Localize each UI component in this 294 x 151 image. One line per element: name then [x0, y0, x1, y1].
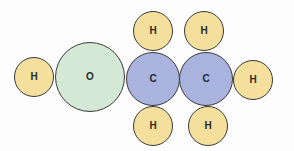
oxygen-atom: O: [55, 42, 125, 112]
atom-label: H: [149, 26, 156, 36]
hydrogen-atom-bottom-left: H: [133, 106, 173, 146]
atom-label: H: [149, 121, 156, 131]
hydrogen-atom-right: H: [233, 60, 273, 100]
atom-label: O: [86, 72, 94, 82]
atom-label: H: [204, 121, 211, 131]
carbon-atom-2: C: [179, 52, 233, 106]
hydrogen-atom-top-right: H: [184, 11, 224, 51]
atom-label: C: [149, 74, 156, 84]
hydrogen-atom-bottom-right: H: [188, 106, 228, 146]
atom-label: H: [200, 26, 207, 36]
ethanol-molecule-diagram: H O C C H H H H H: [0, 0, 294, 151]
hydrogen-atom-left: H: [14, 57, 54, 97]
atom-label: H: [249, 75, 256, 85]
atom-label: H: [30, 72, 37, 82]
carbon-atom-1: C: [126, 52, 180, 106]
atom-label: C: [202, 74, 209, 84]
hydrogen-atom-top-left: H: [133, 11, 173, 51]
